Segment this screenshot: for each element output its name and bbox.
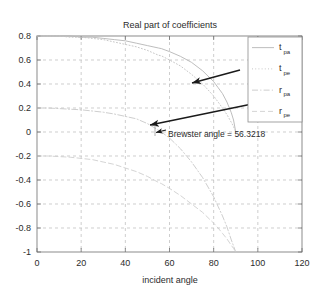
x-tick-label: 80 [209, 258, 219, 268]
legend-box[interactable] [248, 37, 302, 122]
y-tick-label: -0.6 [15, 199, 31, 209]
y-tick-label: -0.4 [15, 175, 31, 185]
x-tick-label: 40 [120, 258, 130, 268]
y-tick-label: -1 [23, 247, 31, 257]
x-tick-label: 20 [76, 258, 86, 268]
x-tick-label: 120 [294, 258, 309, 268]
legend-subscript-pa: pa [284, 91, 291, 97]
chart-title: Real part of coefficients [123, 20, 217, 30]
legend[interactable]: tpatperparpe [248, 37, 302, 122]
legend-label-r-pa: r [279, 85, 282, 95]
plot-canvas: Real part of coefficients 02040608010012… [0, 0, 322, 298]
x-tick-label: 60 [164, 258, 174, 268]
y-tick-label: 0.2 [18, 103, 31, 113]
legend-subscript-pe: pe [284, 70, 291, 76]
y-tick-label: 0 [26, 127, 31, 137]
y-tick-label: -0.8 [15, 223, 31, 233]
y-tick-label: -0.2 [15, 151, 31, 161]
legend-subscript-pa: pa [284, 49, 291, 55]
y-tick-label: 0.8 [18, 31, 31, 41]
y-tick-label: 0.6 [18, 55, 31, 65]
x-tick-label: 100 [250, 258, 265, 268]
x-tick-label: 0 [34, 258, 39, 268]
y-tick-label: 0.4 [18, 79, 31, 89]
legend-subscript-pe: pe [284, 112, 291, 118]
figure-container: Real part of coefficients 02040608010012… [0, 0, 322, 298]
legend-label-r-pe: r [279, 106, 282, 116]
x-axis-label: incident angle [142, 275, 198, 285]
brewster-angle-label: Brewster angle = 56.3218 [168, 129, 265, 139]
